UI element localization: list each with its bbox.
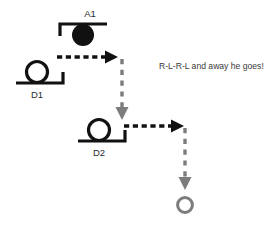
node-d1-circle [27,62,48,83]
connector-turn1-down [116,59,129,120]
connector-turn2-down-arrowhead [179,177,192,190]
connector-turn2-down [179,128,192,190]
connector-turn1-down-arrowhead [116,107,129,120]
diagram-canvas: A1 D1 D2 [0,0,279,226]
node-a1-circle [72,24,94,46]
node-a1[interactable]: A1 [60,8,107,46]
connector-d2-right-arrowhead [171,120,184,133]
node-d1[interactable]: D1 [16,62,63,101]
node-d1-label: D1 [31,89,43,100]
node-a1-label: A1 [84,8,96,19]
node-d2[interactable]: D2 [78,120,125,159]
flow-diagram: A1 D1 D2 [0,0,279,226]
node-d2-label: D2 [93,147,105,158]
caption-label: R-L-R-L and away he goes! [159,61,264,71]
node-end[interactable] [178,198,193,213]
node-end-circle [178,198,193,213]
connector-a1-right [57,51,118,64]
node-d2-circle [89,120,110,141]
connector-a1-right-arrowhead [105,51,118,64]
connector-d2-right [124,120,184,133]
